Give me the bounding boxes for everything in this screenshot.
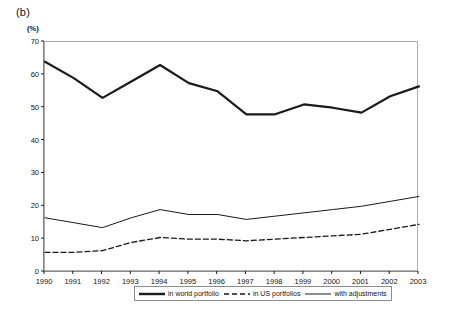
legend-item: with adjustments (305, 289, 386, 299)
legend-item: in world portfolio (139, 289, 219, 299)
legend-swatch-icon (305, 289, 331, 299)
series-line (45, 62, 419, 115)
plot-area (44, 41, 418, 271)
legend-label: in US portfolios (253, 290, 300, 297)
legend-item: in US portfolios (224, 289, 300, 299)
series-line (45, 196, 419, 227)
chart-legend: in world portfolioin US portfolioswith a… (134, 286, 392, 301)
chart-series-layer (45, 42, 419, 272)
series-line (45, 224, 419, 252)
legend-label: in world portfolio (168, 290, 219, 297)
figure-panel-b: (b) (%) 010203040506070 1990199119921993… (0, 0, 453, 314)
legend-swatch-icon (139, 289, 165, 299)
legend-label: with adjustments (334, 290, 386, 297)
legend-swatch-icon (224, 289, 250, 299)
